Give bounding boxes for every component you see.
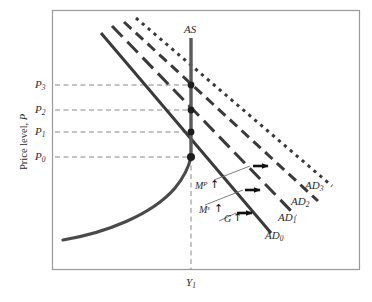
y-tick-sub-p3: 3 [42,83,46,92]
curve-label-ad0-base: AD [265,229,280,241]
y-tick-label-p0: P0 [35,151,45,163]
y-axis-title-symbol: P [18,114,29,120]
annotation-govt-spending-base: G [224,213,231,224]
annotation-money-supply-sup: s [207,204,210,211]
y-tick-base-p2: P [35,103,42,115]
curve-label-ad2: AD2 [291,196,309,208]
y-tick-label-p3: P3 [35,79,45,91]
annotation-money-supply: Ms [199,205,210,215]
annotation-govt-spending: G [224,214,231,224]
curve-label-ad3-sub: 3 [320,184,324,193]
y-tick-base-p3: P [35,78,42,90]
curve-label-ad0: AD0 [265,230,283,242]
equilibrium-point-p3 [188,82,195,89]
curve-label-ad1-sub: 1 [293,216,297,225]
annotation-money-demand-sup: P [203,180,207,187]
annotation-money-demand-arrow: ↑ [210,179,219,190]
annotation-money-supply-arrow: ↑ [214,203,223,214]
curve-label-ad1: AD1 [278,212,296,224]
curve-label-ad2-base: AD [291,195,306,207]
equilibrium-point-p0 [187,153,195,161]
y-tick-label-p1: P1 [35,126,45,138]
y-tick-label-p2: P2 [35,104,45,116]
curve-label-ad3: AD3 [305,180,323,192]
y-tick-sub-p0: 0 [42,155,46,164]
y-tick-base-p0: P [35,150,42,162]
y-axis-title: Price level, P [19,114,30,170]
y-tick-sub-p2: 2 [42,108,46,117]
y-tick-sub-p1: 1 [42,130,46,139]
curve-label-ad1-base: AD [278,211,293,223]
curve-label-ad3-base: AD [305,179,320,191]
x-tick-label-y1: Y1 [186,277,196,289]
y-axis-title-text: Price level, [18,120,29,170]
equilibrium-point-p1 [188,129,195,136]
y-tick-base-p1: P [35,125,42,137]
curve-label-as: AS [184,24,196,35]
equilibrium-point-p2 [188,107,195,114]
annotation-govt-spending-arrow: ↑ [233,212,242,223]
x-tick-sub-y1: 1 [192,281,196,290]
figure-canvas: Price level, P P3 P2 P1 P0 Y1 AS AD3 AD2… [0,0,372,302]
curve-label-ad2-sub: 2 [306,200,310,209]
curve-label-ad0-sub: 0 [280,234,284,243]
diagram-svg [0,0,372,302]
annotation-money-demand: MP [195,181,208,191]
